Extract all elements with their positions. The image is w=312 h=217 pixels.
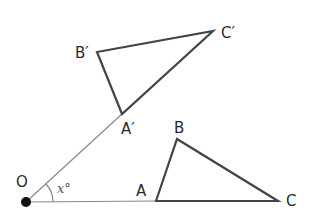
label-a-prime: A′ (121, 120, 135, 138)
label-c: C (286, 192, 296, 210)
label-c-prime: C′ (221, 24, 235, 42)
label-b: B (174, 119, 184, 137)
ray-oa (26, 201, 156, 202)
ray-oa-prime (26, 114, 122, 202)
rotation-diagram: O x° A B C A′ B′ C′ (0, 0, 312, 217)
triangle-abc (156, 139, 278, 201)
center-point (21, 197, 31, 207)
triangle-abc-prime (97, 31, 213, 114)
label-a: A (136, 182, 147, 200)
label-o: O (16, 173, 28, 191)
label-angle: x° (57, 181, 71, 196)
label-b-prime: B′ (75, 44, 89, 62)
angle-arc (46, 184, 53, 202)
